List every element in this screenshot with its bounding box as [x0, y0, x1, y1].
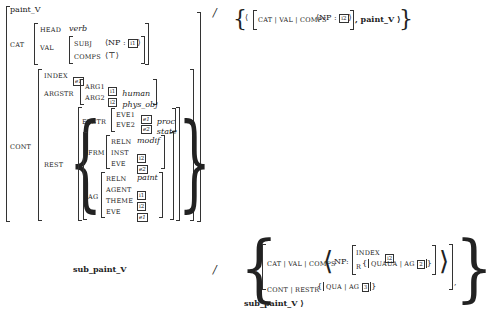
frm-label: FRM	[88, 149, 105, 157]
arg2-label: ARG2	[85, 94, 105, 102]
rest-right-brace: }	[178, 102, 211, 222]
d2-r-tag: 2	[417, 260, 425, 269]
subj-label: SUBJ	[74, 40, 92, 48]
arg2-tag: i2	[108, 98, 117, 107]
d1-type: , paint_V ⟩	[355, 14, 401, 24]
d2-r-label: R	[356, 263, 361, 271]
ag-label: AG	[88, 193, 98, 201]
eve2-tag: e2	[141, 125, 152, 134]
ag-agent-label: AGENT	[106, 186, 132, 194]
d2-np-right-bracket	[432, 245, 436, 275]
ag-right-bracket	[159, 172, 163, 218]
d2-np-open-angle: ⟨	[323, 248, 333, 274]
val-right-bracket	[141, 36, 145, 64]
ag-theme-label: THEME	[106, 197, 133, 205]
evstr-label: EVSTR	[82, 118, 106, 126]
comps-label: COMPS	[74, 53, 101, 61]
subj-value: ⟨NP : i1⟩	[105, 38, 141, 48]
rest-label: REST	[44, 161, 63, 169]
val-label: VAL	[40, 44, 54, 52]
cat-label: CAT	[10, 41, 24, 49]
outer-left-bracket	[6, 6, 10, 222]
d2-r-value: {QUAUA | AG 2}	[362, 259, 432, 269]
cat-right-bracket	[145, 23, 149, 65]
d2-path2: CONT | RESTR	[267, 286, 319, 294]
d2-restr-path: QUA | AG	[326, 283, 359, 291]
index-label: INDEX	[44, 72, 68, 80]
avm-type: paint_V	[10, 5, 41, 14]
d2-np-close-angle: ⟩	[439, 248, 449, 274]
d2-np: NP:	[334, 257, 349, 266]
ag-eve-label: EVE	[106, 208, 121, 216]
frm-eve-label: EVE	[111, 160, 126, 168]
arg1-label: ARG1	[85, 83, 105, 91]
val-left-bracket	[69, 36, 73, 64]
frm-reln-label: RELN	[111, 138, 131, 146]
d2-right-brace: }	[455, 232, 490, 304]
frm-ag-right-bracket	[170, 132, 174, 220]
d2-type: sub_paint_V ⟩	[244, 298, 304, 308]
frm-reln-value: modif	[137, 136, 160, 145]
cat-left-bracket	[34, 23, 38, 65]
frm-inst-label: INST	[111, 149, 129, 157]
eve1-label: EVE1	[116, 111, 135, 119]
evstr-left-bracket	[111, 108, 115, 132]
d1-open-angle: ⟨	[245, 13, 248, 22]
eve2-label: EVE2	[116, 121, 135, 129]
cont-label: CONT	[10, 143, 31, 151]
cont-left-bracket	[38, 69, 42, 221]
d1-tag: i2	[339, 14, 348, 23]
default-slash-1: /	[213, 6, 217, 19]
head-label: HEAD	[40, 26, 61, 34]
sub-type-label: sub_paint_V	[73, 264, 126, 274]
d2-left-bracket	[262, 244, 266, 290]
d1-right-brace: }	[399, 8, 413, 30]
arg2-type: phys_obj	[122, 100, 157, 109]
comps-value: ⟨⊤⟩	[105, 51, 119, 60]
ag-reln-value: paint	[137, 173, 158, 182]
subj-tag: i1	[128, 39, 137, 48]
frm-left-bracket	[106, 135, 110, 169]
argstr-label: ARGSTR	[44, 90, 74, 98]
subj-np: ⟨NP :	[105, 38, 128, 47]
default-slash-2: /	[213, 263, 217, 276]
ag-eve-tag: e1	[137, 213, 148, 222]
d2-index-label: INDEX	[356, 249, 380, 257]
ag-eve-value: e1	[137, 207, 148, 226]
d2-restr-value: {QUA | AG 3}	[317, 282, 376, 292]
head-value: verb	[69, 24, 87, 33]
frm-right-bracket	[161, 135, 165, 169]
frm-ag-left-bracket	[83, 132, 87, 220]
d2-open-angle: ⟨	[255, 265, 258, 274]
ag-left-bracket	[101, 172, 105, 218]
subj-close: ⟩	[138, 38, 141, 47]
d2-r-path: QUAUA | AG	[371, 260, 414, 268]
ag-reln-label: RELN	[106, 175, 126, 183]
d1-np-text: ⟨NP :	[316, 13, 339, 22]
d2-right-bracket	[449, 244, 453, 290]
d1-right-bracket	[350, 10, 354, 30]
d1-np: ⟨NP : i2⟩	[316, 13, 352, 23]
d1-left-bracket	[253, 10, 257, 30]
